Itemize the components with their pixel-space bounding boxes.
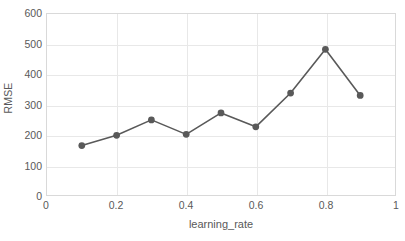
data-point-marker: 0.2, 198 bbox=[113, 132, 120, 139]
data-point-marker: 0.5, 272 bbox=[218, 110, 225, 117]
series-line bbox=[82, 49, 360, 145]
x-axis-tick-label: 0.6 bbox=[249, 199, 264, 212]
y-axis-tick-labels: 0100200300400500600 bbox=[14, 13, 42, 196]
plot-area: 0.1, 1640.2, 1980.3, 2490.4, 2010.5, 272… bbox=[46, 13, 396, 196]
line-chart: RMSE 0100200300400500600 0.1, 1640.2, 19… bbox=[0, 0, 405, 241]
y-axis-tick-label: 100 bbox=[14, 160, 42, 171]
x-axis-title: learning_rate bbox=[46, 218, 396, 230]
data-point-marker: 0.8, 483 bbox=[322, 46, 329, 53]
data-point-marker: 0.4, 201 bbox=[183, 131, 190, 138]
y-axis-title-label: RMSE bbox=[2, 82, 14, 113]
data-point-marker: 0.7, 338 bbox=[287, 90, 294, 97]
data-series-rmse: 0.1, 1640.2, 1980.3, 2490.4, 2010.5, 272… bbox=[47, 14, 395, 195]
x-axis-tick-labels: 00.20.40.60.81 bbox=[46, 199, 396, 215]
y-axis-tick-label: 600 bbox=[14, 8, 42, 19]
x-axis-tick-label: 0.2 bbox=[109, 199, 124, 212]
y-axis-tick-label: 400 bbox=[14, 69, 42, 80]
x-axis-tick-label: 1 bbox=[393, 199, 399, 212]
y-axis-tick-label: 0 bbox=[14, 191, 42, 202]
data-point-marker: 0.6, 226 bbox=[252, 123, 259, 130]
x-axis-tick-label: 0.8 bbox=[319, 199, 334, 212]
y-axis-tick-label: 200 bbox=[14, 130, 42, 141]
y-axis-tick-label: 500 bbox=[14, 38, 42, 49]
data-point-marker: 0.1, 164 bbox=[78, 142, 85, 149]
x-axis-tick-label: 0.4 bbox=[179, 199, 194, 212]
y-axis-tick-label: 300 bbox=[14, 99, 42, 110]
x-axis-tick-label: 0 bbox=[43, 199, 49, 212]
data-point-marker: 0.9, 330 bbox=[357, 92, 364, 99]
data-point-marker: 0.3, 249 bbox=[148, 117, 155, 124]
